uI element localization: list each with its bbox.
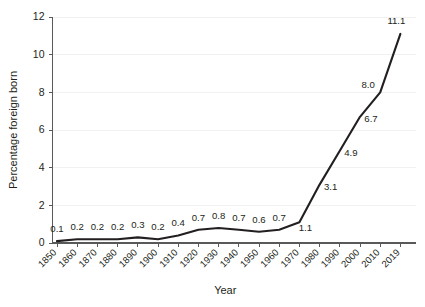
x-tick-label: 1930 [197, 247, 220, 270]
data-point-label: 0.4 [172, 217, 186, 228]
x-tick-label: 2000 [339, 247, 362, 270]
x-tick-label: 1960 [258, 247, 281, 270]
chart-container: 024681012 185018601870188018901900191019… [0, 0, 425, 307]
data-point-labels: 0.10.20.20.20.30.20.40.70.80.70.60.71.13… [50, 15, 405, 234]
data-point-label: 0.8 [212, 210, 225, 221]
x-tick-label: 1970 [278, 247, 301, 270]
y-axis-title: Percentage foreign born [7, 71, 19, 189]
x-tick-label: 2019 [379, 247, 402, 270]
data-point-label: 0.2 [151, 221, 164, 232]
data-point-label: 11.1 [387, 15, 405, 26]
data-point-label: 0.3 [131, 219, 144, 230]
data-series-line [57, 34, 400, 241]
y-tick-label: 6 [39, 123, 45, 135]
x-tick-label: 1870 [76, 247, 99, 270]
y-tick-label: 0 [39, 236, 45, 248]
data-point-label: 3.1 [324, 181, 337, 192]
x-tick-label: 1880 [96, 247, 119, 270]
gridlines [53, 17, 417, 205]
y-axis-ticks [49, 17, 53, 243]
x-tick-label: 1890 [116, 247, 139, 270]
data-point-label: 6.7 [364, 113, 377, 124]
y-tick-label: 8 [39, 86, 45, 98]
x-tick-label: 1940 [217, 247, 240, 270]
y-tick-label: 2 [39, 199, 45, 211]
y-tick-label: 4 [39, 161, 45, 173]
x-tick-label: 1950 [238, 247, 261, 270]
x-tick-label: 1860 [56, 247, 79, 270]
data-point-label: 0.6 [252, 214, 265, 225]
x-tick-label: 1900 [137, 247, 160, 270]
x-tick-label: 1850 [36, 247, 59, 270]
x-axis-title: Year [214, 284, 237, 296]
data-point-label: 0.1 [50, 223, 63, 234]
line-chart: 024681012 185018601870188018901900191019… [0, 0, 425, 307]
x-tick-label: 2010 [359, 247, 382, 270]
data-point-label: 0.7 [232, 212, 245, 223]
y-tick-label: 12 [33, 10, 45, 22]
y-tick-label: 10 [33, 48, 45, 60]
data-point-label: 8.0 [362, 79, 375, 90]
data-point-label: 0.2 [71, 221, 84, 232]
data-point-label: 0.7 [192, 212, 205, 223]
data-point-label: 0.2 [91, 221, 104, 232]
x-tick-label: 1910 [157, 247, 180, 270]
x-axis-tick-labels: 1850186018701880189019001910192019301940… [36, 247, 402, 270]
y-axis-tick-labels: 024681012 [33, 10, 45, 248]
x-tick-label: 1980 [298, 247, 321, 270]
data-point-label: 0.2 [111, 221, 124, 232]
data-point-label: 0.7 [273, 212, 286, 223]
data-point-label: 4.9 [344, 147, 357, 158]
x-axis-ticks [57, 243, 400, 247]
x-tick-label: 1990 [318, 247, 341, 270]
data-point-label: 1.1 [299, 222, 312, 233]
x-tick-label: 1920 [177, 247, 200, 270]
